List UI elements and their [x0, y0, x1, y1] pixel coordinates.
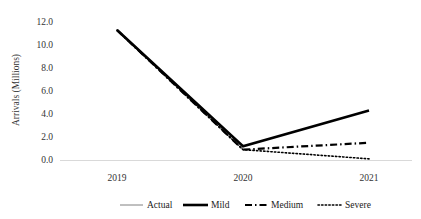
y-tick-label: 2.0: [41, 132, 53, 142]
y-tick-label: 4.0: [41, 109, 53, 119]
y-axis-title: Arrivals (Millions): [11, 54, 22, 126]
x-tick-label: 2021: [360, 173, 379, 183]
y-tick-label: 8.0: [41, 63, 53, 73]
y-tick-label: 12.0: [36, 17, 53, 27]
line-chart: 12.0 10.0 8.0 6.0 4.0 2.0 0.0 Arrivals (…: [0, 0, 421, 219]
x-tick-label: 2020: [234, 173, 253, 183]
legend-label-medium: Medium: [271, 200, 304, 210]
legend-label-severe: Severe: [345, 200, 371, 210]
chart-background: [0, 0, 421, 219]
legend-label-actual: Actual: [147, 200, 173, 210]
y-tick-label: 6.0: [41, 86, 53, 96]
legend-label-mild: Mild: [211, 200, 230, 210]
y-tick-label: 0.0: [41, 155, 53, 165]
chart-canvas: 12.0 10.0 8.0 6.0 4.0 2.0 0.0 Arrivals (…: [0, 0, 421, 219]
y-axis-title-group: Arrivals (Millions): [11, 54, 22, 126]
y-tick-label: 10.0: [36, 40, 53, 50]
x-tick-label: 2019: [108, 173, 127, 183]
